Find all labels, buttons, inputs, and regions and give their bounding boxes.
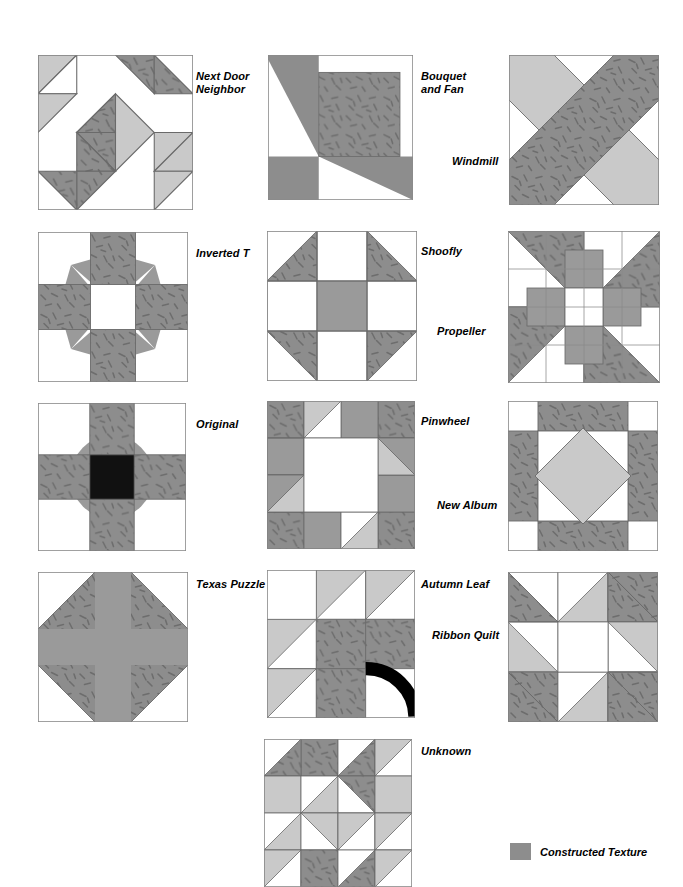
legend-label-constructed-texture: Constructed Texture: [540, 846, 647, 858]
quilt-block-inverted-t: [38, 232, 188, 382]
block-label-autumn-leaf: Autumn Leaf: [421, 578, 489, 591]
legend-swatch-constructed-texture: [510, 843, 531, 860]
block-label-texas-puzzle: Texas Puzzle: [196, 578, 265, 591]
block-label-bouquet-and-fan: Bouquet and Fan: [421, 70, 466, 96]
quilt-block-original: [38, 403, 186, 551]
quilt-block-next-door-neighbor: [38, 55, 193, 210]
quilt-block-ribbon-quilt: [508, 572, 658, 722]
quilt-block-pinwheel: [267, 401, 415, 549]
quilt-block-unknown: [264, 739, 412, 887]
quilt-block-propeller: [508, 231, 660, 383]
quilt-block-autumn-leaf: [267, 570, 415, 718]
block-label-unknown: Unknown: [421, 745, 471, 758]
block-label-ribbon-quilt: Ribbon Quilt: [432, 629, 499, 642]
block-label-next-door-neighbor: Next Door Neighbor: [196, 70, 249, 96]
block-label-propeller: Propeller: [437, 325, 486, 338]
quilt-block-new-album: [508, 401, 658, 551]
block-label-new-album: New Album: [437, 499, 497, 512]
quilt-block-bouquet-and-fan: [268, 55, 413, 200]
quilt-block-windmill: [509, 55, 659, 205]
quilt-block-texas-puzzle: [38, 572, 188, 722]
quilt-block-shoofly: [267, 231, 417, 381]
block-label-inverted-t: Inverted T: [196, 247, 250, 260]
block-label-shoofly: Shoofly: [421, 245, 462, 258]
block-label-original: Original: [196, 418, 238, 431]
block-label-pinwheel: Pinwheel: [421, 415, 469, 428]
legend: Constructed Texture: [510, 843, 647, 860]
block-label-windmill: Windmill: [452, 155, 499, 168]
